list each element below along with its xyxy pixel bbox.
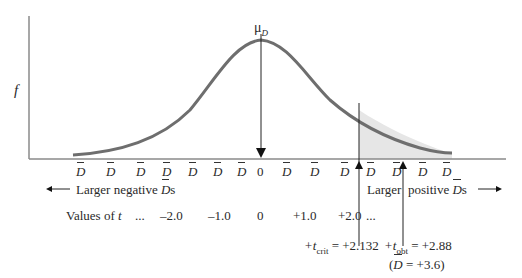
dbar-tick: D (392, 165, 401, 178)
dbar-tick: D (366, 165, 375, 178)
t-value: ... (366, 209, 376, 222)
normal-distribution-figure (0, 0, 522, 278)
dbar-tick: D (442, 165, 451, 178)
right-arrowhead-icon (496, 186, 502, 192)
t-crit-label: +tcrit = +2.132 (304, 239, 379, 256)
y-axis-label: f (14, 83, 18, 98)
mean-arrowhead-icon (256, 148, 266, 158)
dbar-tick: D (162, 165, 171, 178)
dbar-tick: D (418, 165, 427, 178)
dbar-tick: D (188, 165, 197, 178)
t-value: –1.0 (208, 209, 231, 222)
dbar-tick: D (213, 165, 222, 178)
t-row-label: Values of t (66, 209, 122, 222)
dbar-tick: D (340, 165, 349, 178)
t-value: +1.0 (293, 209, 317, 222)
mean-label: μD (254, 21, 268, 38)
dbar-tick: D (136, 165, 145, 178)
left-arrowhead-icon (46, 186, 52, 192)
dbar-tick: D (282, 165, 291, 178)
t-value: ... (135, 209, 145, 222)
d-obt-label: (D = +3.6) (389, 258, 444, 271)
dbar-tick: D (106, 165, 115, 178)
dbar-tick: D (310, 165, 319, 178)
right-direction-label-b: positive Ds (408, 183, 467, 196)
left-direction-label: Larger negative Ds (76, 183, 175, 196)
right-direction-label-a: Larger (367, 183, 401, 196)
zero-tick: 0 (257, 165, 264, 178)
dbar-tick: D (237, 165, 246, 178)
t-value: 0 (257, 209, 264, 222)
dbar-tick: D (76, 165, 85, 178)
t-crit-arrowhead-icon (355, 161, 363, 169)
t-value: +2.0 (338, 209, 362, 222)
t-value: –2.0 (160, 209, 183, 222)
